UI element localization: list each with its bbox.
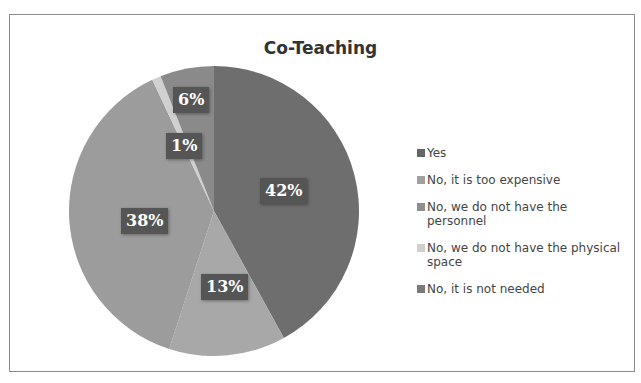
data-label-no-space: 1% <box>166 133 202 159</box>
data-label-too-expensive: 13% <box>201 274 248 300</box>
legend-item-yes: Yes <box>417 146 627 160</box>
data-label-not-needed: 6% <box>173 87 209 113</box>
legend: Yes No, it is too expensive No, we do no… <box>417 146 627 309</box>
data-label-no-personnel: 38% <box>121 208 168 234</box>
legend-label: No, it is too expensive <box>427 173 560 187</box>
legend-swatch <box>417 203 425 211</box>
legend-item-not-needed: No, it is not needed <box>417 282 627 296</box>
data-label-yes: 42% <box>260 178 307 204</box>
legend-swatch <box>417 285 425 293</box>
legend-label: No, it is not needed <box>427 282 545 296</box>
legend-item-too-expensive: No, it is too expensive <box>417 173 627 187</box>
legend-label: Yes <box>427 146 446 160</box>
legend-swatch <box>417 176 425 184</box>
legend-label: No, we do not have the personnel <box>427 200 567 228</box>
legend-item-no-personnel: No, we do not have the personnel <box>417 200 627 228</box>
legend-label: No, we do not have the physical space <box>427 241 620 269</box>
legend-swatch <box>417 244 425 252</box>
legend-swatch <box>417 149 425 157</box>
legend-item-no-space: No, we do not have the physical space <box>417 241 627 269</box>
